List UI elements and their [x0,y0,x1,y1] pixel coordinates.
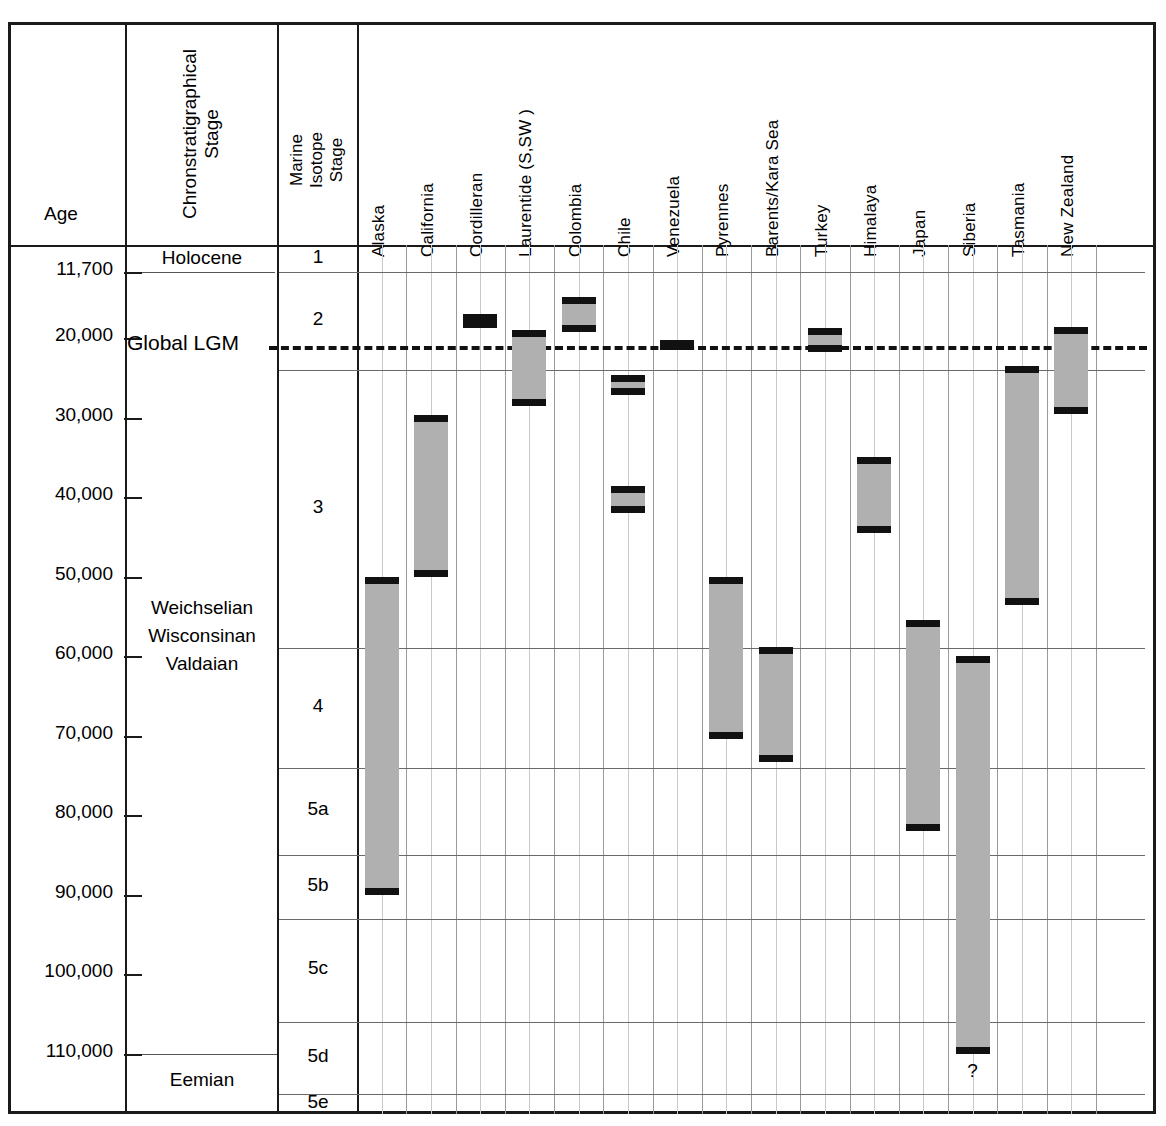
plot-column-gridline-5 [603,245,604,1114]
bar-cap-bottom [414,570,448,577]
mis-stage-label-4: 4 [279,695,357,717]
plot-column-gridline-6 [653,245,654,1114]
bar-cap-bottom [512,399,546,406]
plot-column-gridline-12 [948,245,949,1114]
age-label-70000: 70,000 [10,722,113,744]
chrono-stage-weichselian: Weichselian [127,597,277,619]
bar-cap-top [611,375,645,382]
bar-cap-top [906,620,940,627]
column-header-chile: Chile [615,217,635,257]
plot-center-guide-9 [825,245,826,1114]
bar-cap-bottom [857,526,891,533]
bar-cap-top [414,415,448,422]
header-chronostratigraphical-stage: ChronstratigraphicalStage [125,22,277,245]
data-bar-barents-kara-sea-9 [759,647,793,762]
plot-column-gridline-1 [406,245,407,1114]
plot-column-gridline-11 [899,245,900,1114]
plot-center-guide-6 [677,245,678,1114]
age-tick-30000 [124,418,142,420]
chrono-stage-valdaian: Valdaian [127,653,277,675]
plot-column-gridline-4 [554,245,555,1114]
bar-cap-top [857,457,891,464]
data-bar-alaska-0 [365,577,399,895]
column-header-tasmania: Tasmania [1009,183,1029,257]
mis-boundary-5a [279,768,1145,769]
plot-column-gridline-14 [1047,245,1048,1114]
chrono-stage-holocene: Holocene [127,247,277,269]
age-label-50000: 50,000 [10,563,113,585]
bar-cap-bottom [365,888,399,895]
data-bar-california-1 [414,415,448,576]
column-header-alaska: Alaska [369,205,389,257]
bar-cap-top [1054,327,1088,334]
age-label-40000: 40,000 [10,483,113,505]
plot-center-guide-4 [579,245,580,1114]
plot-column-gridline-8 [751,245,752,1114]
header-age: Age [44,203,78,225]
data-bar-cordilleran-2 [463,314,497,328]
column-header-venezuela: Venezuela [664,176,684,257]
column-header-himalaya: Himalaya [861,185,881,257]
bar-cap-bottom [709,732,743,739]
eemian-boundary-line [127,1054,277,1055]
column-header-barents-kara-sea: Barents/Kara Sea [763,120,783,257]
bar-cap-bottom [1054,407,1088,414]
lgm-dashed-line [269,346,1147,350]
plot-center-guide-2 [480,245,481,1114]
stratigraphic-correlation-chart: AgeChronstratigraphicalStageMarineIsotop… [0,0,1166,1126]
age-tick-90000 [124,895,142,897]
age-label-11700: 11,700 [10,258,113,280]
data-bar-new-zealand-15 [1054,327,1088,415]
data-bar-venezuela-7 [660,340,694,350]
bar-cap-bottom [463,321,497,328]
age-tick-110000 [124,1054,142,1056]
age-tick-40000 [124,497,142,499]
column-header-pyrennes: Pyrennes [713,184,733,257]
column-header-turkey: Turkey [812,204,832,257]
bar-cap-top [956,656,990,663]
bar-cap-top [808,328,842,335]
plot-column-gridline-10 [850,245,851,1114]
mis-boundary-5e [279,1094,1145,1095]
header-marine-isotope-stage: MarineIsotopeStage [277,22,357,245]
plot-center-guide-10 [874,245,875,1114]
data-bar-himalaya-11 [857,457,891,533]
age-tick-50000 [124,577,142,579]
data-bar-turkey-10 [808,328,842,353]
age-label-110000: 110,000 [10,1040,113,1062]
age-label-60000: 60,000 [10,642,113,664]
age-label-90000: 90,000 [10,881,113,903]
age-label-30000: 30,000 [10,404,113,426]
mis-stage-label-5c: 5c [279,957,357,979]
column-header-new-zealand: New Zealand [1058,155,1078,257]
header-chrono-text: ChronstratigraphicalStage [179,48,223,218]
mis-stage-label-2: 2 [279,308,357,330]
data-bar-chile-5 [611,375,645,396]
data-bar-siberia-13 [956,656,990,1054]
bar-cap-bottom [956,1047,990,1054]
bar-cap-top [759,647,793,654]
bar-cap-top [709,577,743,584]
age-label-80000: 80,000 [10,801,113,823]
bar-cap-bottom [611,506,645,513]
bar-cap-bottom [660,343,694,350]
column-header-laurentide-s-sw: Laurentide (S,SW ) [516,109,536,257]
plot-column-gridline-15 [1096,245,1097,1114]
mis-stage-label-5b: 5b [279,874,357,896]
mis-stage-label-1: 1 [279,246,357,268]
bar-cap-top [463,314,497,321]
lgm-label: Global LGM [127,331,239,355]
bar-cap-top [611,486,645,493]
data-bar-pyrennes-8 [709,577,743,739]
bar-cap-bottom [808,345,842,352]
age-tick-11700 [124,272,142,274]
data-bar-chile-6 [611,486,645,513]
plot-column-gridline-2 [456,245,457,1114]
data-bar-colombia-4 [562,297,596,331]
bar-cap-bottom [759,755,793,762]
bar-cap-top [512,330,546,337]
age-label-100000: 100,000 [10,960,113,982]
header-mis-text: MarineIsotopeStage [287,132,347,188]
plot-center-guide-1 [431,245,432,1114]
column-header-siberia: Siberia [960,203,980,257]
